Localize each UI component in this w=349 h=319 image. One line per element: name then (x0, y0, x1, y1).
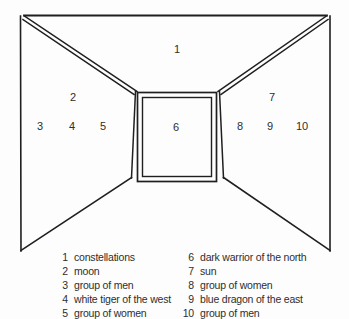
legend-item-number: 5 (54, 306, 68, 319)
legend-item-label: blue dragon of the east (200, 292, 303, 306)
legend-item: 3 group of men (54, 278, 171, 292)
legend-item-label: group of women (74, 306, 147, 319)
region-marker-10: 10 (296, 121, 308, 132)
legend-item-number: 2 (54, 264, 68, 278)
tomb-ceiling-diagram: 1 2 3 4 5 6 7 8 9 10 1 constellations 2 … (0, 0, 349, 319)
region-marker-1: 1 (174, 44, 180, 55)
left-side-vertical-line (132, 92, 136, 179)
legend-item-number: 3 (54, 278, 68, 292)
legend-item-number: 9 (180, 292, 194, 306)
upper-right-diagonal-outer-line (218, 16, 327, 92)
region-marker-8: 8 (237, 121, 243, 132)
legend-item-number: 4 (54, 292, 68, 306)
legend-item: 2 moon (54, 264, 171, 278)
legend-item: 7 sun (180, 264, 306, 278)
legend-item-label: group of men (74, 278, 133, 292)
legend-item-number: 8 (180, 278, 194, 292)
legend-item-number: 1 (54, 250, 68, 264)
upper-right-diagonal-inner-line (221, 20, 328, 95)
legend-item: 5 group of women (54, 306, 171, 319)
legend-item-label: dark warrior of the north (200, 250, 306, 264)
region-marker-2: 2 (70, 92, 76, 103)
legend-item: 6 dark warrior of the north (180, 250, 306, 264)
legend-item-label: group of men (200, 306, 259, 319)
legend-item: 9 blue dragon of the east (180, 292, 306, 306)
legend-item-label: moon (74, 264, 99, 278)
legend-item-label: group of women (200, 278, 273, 292)
region-marker-5: 5 (100, 121, 106, 132)
upper-left-diagonal-outer-line (25, 16, 138, 92)
region-marker-4: 4 (69, 121, 75, 132)
legend-item-label: white tiger of the west (74, 292, 171, 306)
legend-item: 8 group of women (180, 278, 306, 292)
legend-column-right: 6 dark warrior of the north 7 sun 8 grou… (180, 250, 306, 319)
region-marker-7: 7 (269, 92, 275, 103)
legend-item: 10 group of men (180, 306, 306, 319)
legend-item-label: constellations (74, 250, 135, 264)
legend-item: 4 white tiger of the west (54, 292, 171, 306)
upper-left-diagonal-inner-line (23, 20, 134, 95)
legend-item-label: sun (200, 264, 216, 278)
region-marker-6: 6 (173, 122, 179, 133)
capstone-inner-square (143, 98, 212, 177)
lower-left-diagonal-line (21, 178, 132, 251)
legend-column-left: 1 constellations 2 moon 3 group of men 4… (54, 250, 171, 319)
legend-item: 1 constellations (54, 250, 171, 264)
left-wall-line (21, 16, 22, 251)
legend-item-number: 6 (180, 250, 194, 264)
legend-item-number: 10 (180, 306, 194, 319)
legend-item-number: 7 (180, 264, 194, 278)
region-marker-3: 3 (37, 121, 43, 132)
lower-right-diagonal-line (224, 178, 331, 251)
region-marker-9: 9 (267, 121, 273, 132)
capstone-outer-square (138, 93, 217, 182)
right-side-vertical-line (220, 92, 224, 179)
